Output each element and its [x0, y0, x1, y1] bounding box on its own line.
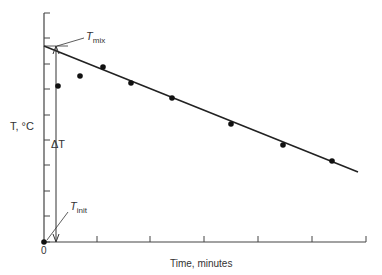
data-point [228, 121, 234, 127]
delta-t-label: ΔT [51, 138, 65, 150]
y-axis-label: T, °C [10, 120, 34, 132]
data-points [41, 64, 335, 245]
data-point [128, 80, 134, 86]
data-point [169, 95, 175, 101]
x-ticks [97, 236, 366, 242]
data-point [280, 142, 286, 148]
origin-label: 0 [41, 245, 47, 256]
axes [44, 13, 366, 242]
t-init-leader [47, 212, 68, 240]
chart: Tmix Tinit ΔT T, °C Time, minutes 0 [0, 0, 382, 275]
data-point [100, 64, 106, 70]
x-axis-label: Time, minutes [170, 258, 232, 269]
t-mix-label: Tmix [86, 30, 105, 45]
data-point [41, 239, 47, 245]
data-point [77, 73, 83, 79]
data-point [55, 83, 61, 89]
fit-line [44, 46, 358, 172]
t-init-label: Tinit [70, 200, 88, 215]
t-mix-leader [57, 38, 84, 46]
data-point [329, 158, 335, 164]
